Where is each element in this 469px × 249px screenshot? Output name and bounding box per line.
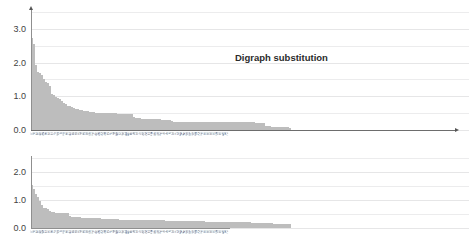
y-tick-label: 0.0 <box>13 224 26 233</box>
x-axis-line-vigenere <box>31 228 230 229</box>
x-axis-labels-vigenere: THHEINERANRENDONATENESSTTONTHAEDITOUEAHI… <box>31 230 230 246</box>
x-tick-label: YO <box>227 132 229 136</box>
y-tick-label: 1.0 <box>13 196 26 205</box>
y-axis-line-vigenere <box>31 156 32 228</box>
bar-series-digraph <box>31 12 230 130</box>
x-axis-labels-digraph: THHEINERANRENDATONNTHAESSTENEDTOITOUEAHI… <box>31 132 230 148</box>
bar <box>289 224 291 228</box>
chart-panel-digraph-substitution: 0.01.02.03.0 THHEINERANRENDATONNTHAESSTE… <box>0 0 469 148</box>
chart-title-digraph: Digraph substitution <box>235 52 328 63</box>
y-tick-label: 1.0 <box>13 92 26 101</box>
plot-area-vigenere <box>31 158 469 228</box>
y-tick-label: 2.0 <box>13 58 26 67</box>
x-axis-line-digraph <box>31 130 455 131</box>
x-tick-label: YO <box>227 230 229 234</box>
y-tick-label: 0.0 <box>13 126 26 135</box>
chart-panel-vigenere-cipher: 0.01.02.0 THHEINERANRENDONATENESSTTONTHA… <box>0 150 469 249</box>
y-tick-label: 3.0 <box>13 24 26 33</box>
y-axis-arrow-icon-digraph <box>29 6 33 10</box>
x-axis-arrow-icon-digraph <box>455 128 459 132</box>
y-axis-line-digraph <box>31 10 32 130</box>
bar-series-vigenere <box>31 158 230 228</box>
y-axis-labels-vigenere: 0.01.02.0 <box>0 150 26 249</box>
y-tick-label: 2.0 <box>13 168 26 177</box>
y-axis-labels-digraph: 0.01.02.03.0 <box>0 0 26 148</box>
figure-root: 0.01.02.03.0 THHEINERANRENDATONNTHAESSTE… <box>0 0 469 249</box>
plot-area-digraph <box>31 12 469 130</box>
